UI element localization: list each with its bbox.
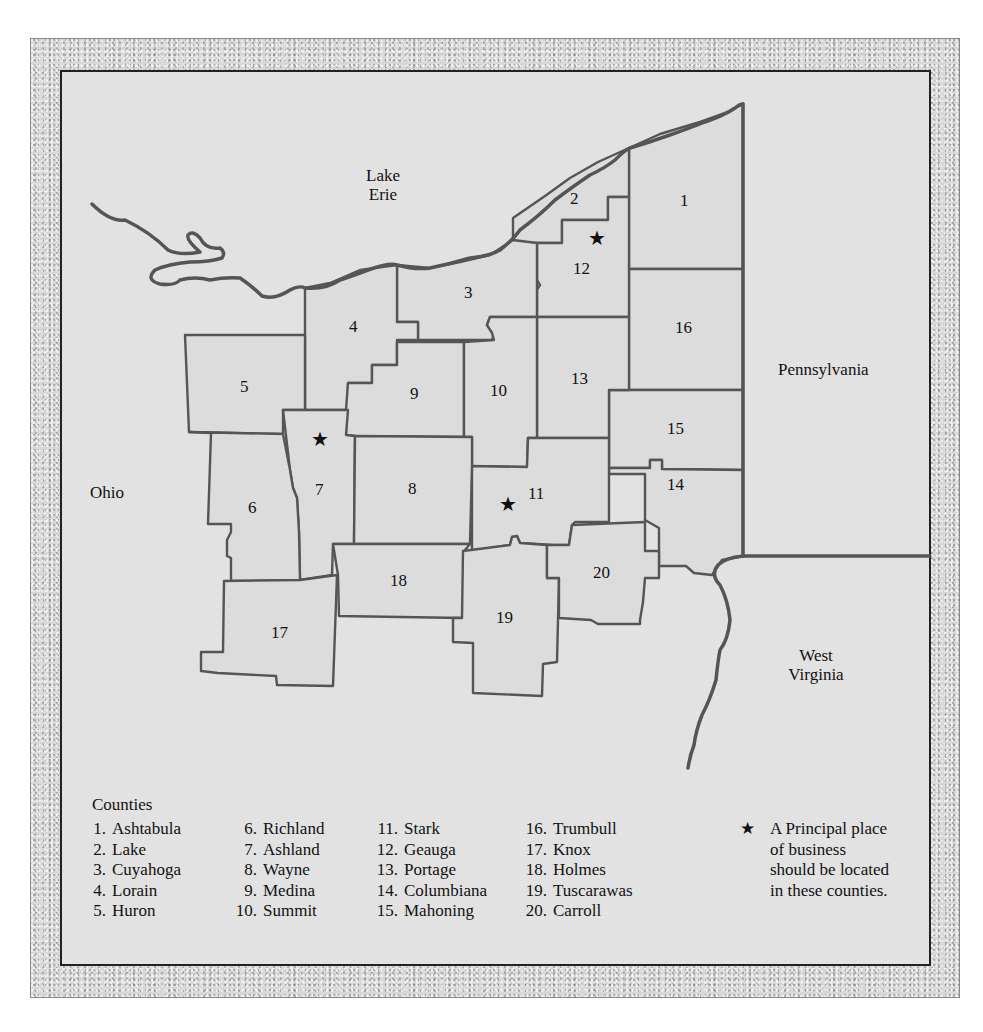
legend-item-name: Cuyahoga bbox=[112, 860, 181, 879]
legend-item-number: 7. bbox=[229, 840, 257, 861]
legend-item-name: Columbiana bbox=[404, 881, 487, 900]
legend-item: 3.Cuyahoga bbox=[92, 860, 181, 881]
county-number-6: 6 bbox=[248, 498, 257, 517]
legend-item: 4.Lorain bbox=[92, 881, 181, 902]
legend-item-number: 5. bbox=[92, 901, 106, 922]
lake-erie-label: Lake Erie bbox=[348, 166, 418, 204]
legend-item: 12.Geauga bbox=[370, 840, 487, 861]
legend-item-name: Holmes bbox=[553, 860, 606, 879]
county-number-19: 19 bbox=[496, 608, 513, 627]
west-virginia-label-line1: West bbox=[776, 646, 856, 665]
legend-item: 17.Knox bbox=[519, 840, 633, 861]
star-legend-line: in these counties. bbox=[770, 881, 920, 902]
county-number-5: 5 bbox=[240, 377, 249, 396]
legend-item-name: Ashtabula bbox=[112, 819, 181, 838]
legend-item: 6.Richland bbox=[229, 819, 324, 840]
county-number-7: 7 bbox=[315, 480, 324, 499]
county-number-13: 13 bbox=[571, 369, 588, 388]
legend-item-number: 4. bbox=[92, 881, 106, 902]
legend-column-4: 16.Trumbull 17.Knox 18.Holmes 19.Tuscara… bbox=[519, 819, 633, 922]
legend-item-number: 6. bbox=[229, 819, 257, 840]
legend-item-number: 2. bbox=[92, 840, 106, 861]
county-number-14: 14 bbox=[667, 475, 684, 494]
county-number-20: 20 bbox=[593, 563, 610, 582]
legend-item: 11.Stark bbox=[370, 819, 487, 840]
legend-item-name: Richland bbox=[263, 819, 324, 838]
legend-item: 15.Mahoning bbox=[370, 901, 487, 922]
legend-item: 18.Holmes bbox=[519, 860, 633, 881]
legend-item-name: Summit bbox=[263, 901, 317, 920]
legend-item-name: Carroll bbox=[553, 901, 601, 920]
ohio-river bbox=[688, 556, 743, 768]
legend-item-number: 9. bbox=[229, 881, 257, 902]
star-icon-ashland: ★ bbox=[311, 429, 329, 449]
legend-item-name: Ashland bbox=[263, 840, 320, 859]
county-number-16: 16 bbox=[675, 318, 692, 337]
legend-item-number: 16. bbox=[519, 819, 547, 840]
legend-item-number: 15. bbox=[370, 901, 398, 922]
legend-item: 16.Trumbull bbox=[519, 819, 633, 840]
legend-item-name: Knox bbox=[553, 840, 591, 859]
west-virginia-label: West Virginia bbox=[776, 646, 856, 684]
legend-item-number: 18. bbox=[519, 860, 547, 881]
legend-item: 20.Carroll bbox=[519, 901, 633, 922]
county-number-15: 15 bbox=[667, 419, 684, 438]
lake-erie-label-line2: Erie bbox=[348, 185, 418, 204]
legend-item-number: 3. bbox=[92, 860, 106, 881]
legend-item-name: Lorain bbox=[112, 881, 157, 900]
legend-column-1: 1.Ashtabula 2.Lake 3.Cuyahoga 4.Lorain 5… bbox=[92, 819, 181, 922]
star-legend-line: should be located bbox=[770, 860, 920, 881]
legend-item-name: Wayne bbox=[263, 860, 310, 879]
legend-item-name: Geauga bbox=[404, 840, 456, 859]
legend-item-name: Mahoning bbox=[404, 901, 474, 920]
legend-item-name: Lake bbox=[112, 840, 146, 859]
star-icon-stark: ★ bbox=[499, 494, 517, 514]
legend-item-name: Portage bbox=[404, 860, 456, 879]
county-number-10: 10 bbox=[490, 381, 507, 400]
county-6 bbox=[189, 432, 300, 581]
county-number-4: 4 bbox=[349, 317, 358, 336]
legend-item: 9.Medina bbox=[229, 881, 324, 902]
legend-item-name: Tuscarawas bbox=[553, 881, 633, 900]
legend-item-number: 10. bbox=[229, 901, 257, 922]
county-17 bbox=[201, 575, 337, 686]
legend-title: Counties bbox=[92, 795, 152, 816]
legend-item-number: 17. bbox=[519, 840, 547, 861]
legend-item: 10.Summit bbox=[229, 901, 324, 922]
star-legend-line: of business bbox=[770, 840, 920, 861]
pennsylvania-label: Pennsylvania bbox=[778, 360, 869, 379]
legend-item-name: Medina bbox=[263, 881, 315, 900]
star-legend-text: A Principal place of business should be … bbox=[770, 819, 920, 901]
west-virginia-label-line2: Virginia bbox=[776, 665, 856, 684]
legend-item: 7.Ashland bbox=[229, 840, 324, 861]
legend-item: 19.Tuscarawas bbox=[519, 881, 633, 902]
legend-column-3: 11.Stark 12.Geauga 13.Portage 14.Columbi… bbox=[370, 819, 487, 922]
legend-item: 8.Wayne bbox=[229, 860, 324, 881]
county-number-3: 3 bbox=[464, 283, 473, 302]
county-number-9: 9 bbox=[410, 384, 419, 403]
legend-item-number: 8. bbox=[229, 860, 257, 881]
legend-item: 1.Ashtabula bbox=[92, 819, 181, 840]
legend-item-number: 11. bbox=[370, 819, 398, 840]
county-number-11: 11 bbox=[528, 484, 544, 503]
legend-item: 2.Lake bbox=[92, 840, 181, 861]
county-number-8: 8 bbox=[408, 479, 417, 498]
legend-item-name: Trumbull bbox=[553, 819, 617, 838]
star-icon: ★ bbox=[740, 819, 755, 840]
ohio-label: Ohio bbox=[90, 483, 124, 502]
legend-item-name: Huron bbox=[112, 901, 155, 920]
lake-erie-label-line1: Lake bbox=[348, 166, 418, 185]
legend-item-number: 14. bbox=[370, 881, 398, 902]
legend-item-number: 13. bbox=[370, 860, 398, 881]
legend-item: 13.Portage bbox=[370, 860, 487, 881]
county-number-17: 17 bbox=[271, 623, 288, 642]
legend-item-number: 1. bbox=[92, 819, 106, 840]
county-number-1: 1 bbox=[680, 191, 689, 210]
legend-item: 5.Huron bbox=[92, 901, 181, 922]
legend-item: 14.Columbiana bbox=[370, 881, 487, 902]
legend-item-number: 12. bbox=[370, 840, 398, 861]
star-icon-geauga: ★ bbox=[588, 228, 606, 248]
legend-item-number: 19. bbox=[519, 881, 547, 902]
legend-column-2: 6.Richland 7.Ashland 8.Wayne 9.Medina 10… bbox=[229, 819, 324, 922]
county-number-12: 12 bbox=[573, 259, 590, 278]
